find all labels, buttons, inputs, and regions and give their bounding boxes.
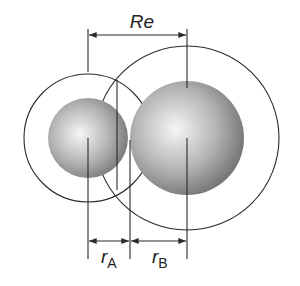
rb-label: rB — [152, 246, 168, 271]
re-label: Re — [130, 11, 154, 32]
atomic-radius-diagram: Re rA rB — [0, 0, 300, 286]
ra-label: rA — [101, 246, 117, 271]
